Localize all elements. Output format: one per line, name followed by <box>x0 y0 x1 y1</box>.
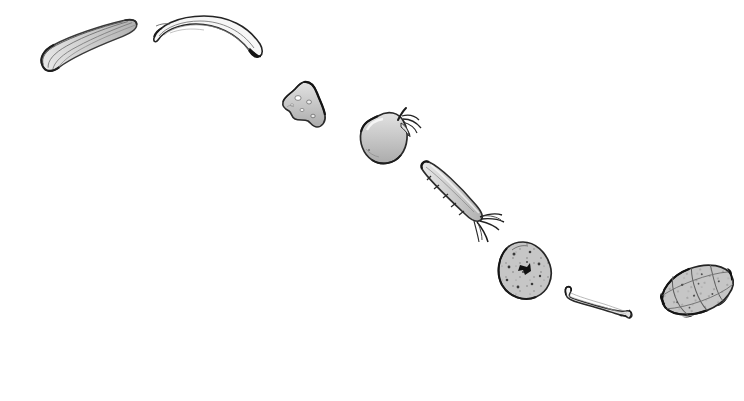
illustration-canvas: zucchini banana cheese wedge apple carro… <box>0 0 744 401</box>
canvas-background <box>0 0 744 401</box>
food-illustration-arc <box>0 0 744 401</box>
